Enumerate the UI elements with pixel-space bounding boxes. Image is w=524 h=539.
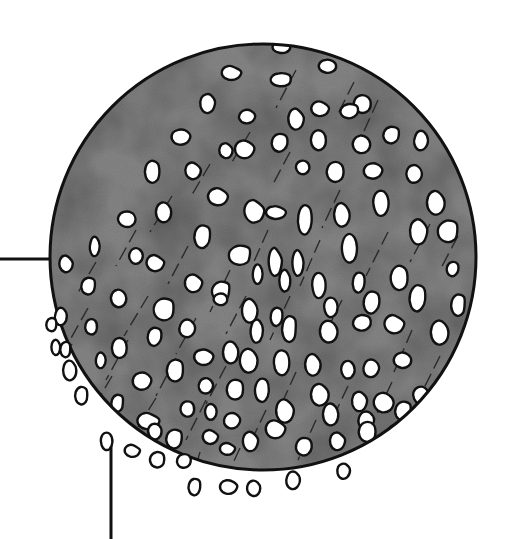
white-particle [205,404,217,419]
white-particle [223,342,238,364]
escaping-particle [51,340,60,355]
escaping-particle [46,318,56,331]
white-particle [179,320,195,337]
escaping-particle [75,387,87,405]
white-particle [353,273,365,293]
white-particle [410,219,427,244]
white-particle [81,278,95,295]
white-particle [185,162,200,179]
white-particle [203,430,218,444]
white-particle [363,360,379,377]
white-particle [154,299,174,321]
white-particle [200,94,215,113]
white-particle [251,320,263,343]
white-particle [172,130,191,145]
white-particle [447,262,459,276]
white-particle [156,202,171,222]
white-particle [118,212,135,227]
white-particle [352,392,367,411]
white-particle [373,191,388,216]
escaping-particle [220,480,237,494]
white-particle [276,399,294,422]
white-particle [214,294,228,305]
white-particle [323,404,338,426]
white-particle [324,298,337,317]
white-particle [288,109,303,130]
white-particle [431,321,448,345]
white-particle [298,205,312,234]
white-particle [414,131,428,150]
magnified-surface-illustration [0,0,524,539]
white-particle [227,380,243,400]
white-particle [181,401,195,416]
disc [0,0,524,539]
white-particle [311,384,328,406]
white-particle [274,350,289,375]
white-particle [145,161,159,183]
white-particle [185,274,202,292]
white-particle [342,234,357,263]
white-particle [208,188,228,205]
escaping-particle [177,454,191,468]
white-particle [255,379,269,402]
escaping-particle [101,433,113,450]
white-particle [235,140,254,158]
white-particle [266,206,286,219]
escaping-particle [125,445,140,457]
white-particle [266,420,286,438]
white-particle [90,237,100,256]
white-particle [239,110,255,123]
white-particle [282,316,296,342]
escaping-particle [60,342,70,357]
white-particle [374,393,394,412]
white-particle [111,290,126,308]
white-particle [311,101,329,116]
white-particle [133,373,152,390]
escaping-particle [189,479,201,495]
white-particle [293,250,304,276]
white-particle [199,378,213,393]
white-particle [296,438,312,456]
white-particle [167,360,183,382]
escaping-particle [63,361,76,381]
white-particle [406,165,421,182]
white-particle [334,203,349,227]
white-particle [341,104,358,118]
white-particle [327,162,344,182]
escaping-particle [150,452,164,467]
white-particle [305,354,320,375]
escaping-particle [337,464,350,479]
white-particle [383,127,398,144]
white-particle [311,130,326,150]
white-particle [320,321,337,343]
white-particle [353,136,370,154]
white-particle [364,292,380,314]
white-particle [353,315,371,331]
escaping-particle [247,481,260,496]
white-particle [391,266,408,290]
white-particle [312,273,325,298]
white-particle [364,163,383,178]
white-particle [410,285,426,311]
white-particle [220,443,235,455]
white-particle [195,225,211,248]
white-particle [451,294,464,315]
white-particle [296,161,309,174]
escaping-particle [286,472,300,489]
white-particle [60,255,73,272]
white-particle [330,432,345,450]
white-particle [85,319,97,334]
white-particle [229,246,250,265]
white-particle [240,349,257,373]
white-particle [219,143,232,158]
white-particle [166,430,181,449]
white-particle [96,353,106,368]
white-particle [341,361,355,378]
white-particle [271,308,283,326]
white-particle [279,270,290,292]
white-particle [427,191,445,215]
white-particle [148,328,162,346]
white-particle [253,265,263,284]
white-particle [271,73,291,86]
white-particle [394,353,411,368]
